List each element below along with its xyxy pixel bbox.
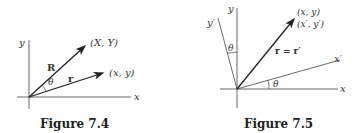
fig75-vector-label: r = r′	[275, 47, 301, 56]
fig74-R-vector-label: R	[47, 63, 55, 73]
fig75-x-prime-axis-label: x′	[334, 54, 342, 64]
fig75-tip-label-xy-prime: (x′, y′)	[297, 20, 324, 29]
fig75-theta-bottom-label: θ	[273, 80, 278, 89]
fig75-tip-label-xy: (x, y)	[297, 8, 320, 17]
fig74-x-axis-label: x	[134, 92, 140, 102]
fig75-y-axis-label: y	[228, 4, 234, 14]
figure-7-4-caption: Figure 7.4	[40, 117, 109, 131]
fig74-theta-label: θ	[48, 78, 53, 87]
figure-7-5-caption: Figure 7.5	[244, 117, 313, 131]
fig74-R-tip-label: (X, Y)	[90, 38, 118, 48]
fig74-r-tip-label: (x, y)	[109, 68, 134, 78]
fig75-x-axis-label: x	[340, 84, 346, 94]
fig75-y-prime-axis-label: y′	[207, 18, 215, 28]
fig74-r-vector-label: r	[68, 74, 73, 84]
fig75-theta-top-label: θ	[228, 44, 233, 53]
fig74-y-axis-label: y	[19, 38, 25, 48]
